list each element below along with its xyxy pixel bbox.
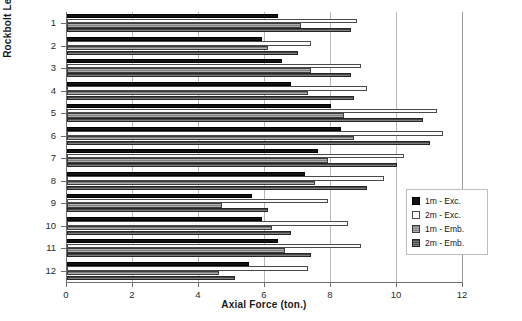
bar-2-1m-emb- (67, 46, 268, 50)
y-tick-11 (61, 248, 66, 249)
bar-5-1m-exc- (67, 104, 331, 108)
legend-swatch-2m-exc (412, 211, 420, 219)
legend-swatch-2m-emb (412, 239, 420, 247)
bar-1-2m-exc- (67, 19, 357, 23)
y-tick-6 (61, 136, 66, 137)
y-tick-label-11: 11 (30, 243, 56, 253)
bar-group-level-12 (67, 260, 463, 283)
bar-11-2m-exc- (67, 244, 361, 248)
bar-5-1m-emb- (67, 113, 344, 117)
legend-label-2m-emb: 2m - Emb. (425, 239, 464, 248)
bar-3-2m-exc- (67, 64, 361, 68)
y-tick-label-12: 12 (30, 266, 56, 276)
bar-9-1m-emb- (67, 203, 222, 207)
bar-3-1m-exc- (67, 59, 282, 63)
bar-1-1m-emb- (67, 23, 301, 27)
x-tick-2 (132, 282, 133, 287)
y-tick-label-3: 3 (30, 63, 56, 73)
bar-6-2m-exc- (67, 131, 443, 135)
bar-4-2m-emb- (67, 96, 354, 100)
bar-3-1m-emb- (67, 68, 311, 72)
bar-9-1m-exc- (67, 194, 252, 198)
legend-label-2m-exc: 2m - Exc. (425, 211, 461, 220)
y-tick-label-5: 5 (30, 108, 56, 118)
bar-group-level-7 (67, 147, 463, 170)
legend-item: 2m - Exc. (412, 208, 483, 222)
bar-4-1m-exc- (67, 82, 291, 86)
legend-label-1m-emb: 1m - Emb. (425, 225, 464, 234)
bar-5-2m-emb- (67, 118, 423, 122)
x-tick-label-4: 4 (186, 289, 210, 300)
bar-group-level-3 (67, 57, 463, 80)
bar-11-2m-emb- (67, 253, 311, 257)
x-tick-label-6: 6 (252, 289, 276, 300)
bar-group-level-8 (67, 170, 463, 193)
chart-legend: 1m - Exc. 2m - Exc. 1m - Emb. 2m - Emb. (406, 189, 488, 255)
bar-2-2m-emb- (67, 51, 298, 55)
y-tick-10 (61, 226, 66, 227)
bar-4-1m-emb- (67, 91, 308, 95)
bar-7-1m-emb- (67, 158, 328, 162)
legend-swatch-1m-exc (412, 197, 420, 205)
x-tick-0 (66, 282, 67, 287)
x-axis-title: Axial Force (ton.) (66, 299, 462, 310)
y-tick-label-6: 6 (30, 131, 56, 141)
y-tick-4 (61, 91, 66, 92)
bar-group-level-2 (67, 35, 463, 58)
y-tick-label-10: 10 (30, 221, 56, 231)
bar-7-2m-exc- (67, 154, 404, 158)
y-tick-5 (61, 113, 66, 114)
bar-2-1m-exc- (67, 37, 262, 41)
y-axis-title: Rockbolt Levels (2, 0, 13, 88)
bar-group-level-6 (67, 125, 463, 148)
bar-10-1m-exc- (67, 217, 262, 221)
axial-force-bar-chart: Rockbolt Levels Axial Force (ton.) 02468… (0, 0, 522, 321)
x-tick-label-12: 12 (450, 289, 474, 300)
y-tick-12 (61, 271, 66, 272)
legend-item: 1m - Emb. (412, 222, 483, 236)
y-tick-3 (61, 68, 66, 69)
y-tick-label-9: 9 (30, 198, 56, 208)
legend-swatch-1m-emb (412, 225, 420, 233)
legend-item: 2m - Emb. (412, 236, 483, 250)
bar-8-2m-exc- (67, 176, 384, 180)
y-tick-label-8: 8 (30, 176, 56, 186)
y-tick-1 (61, 23, 66, 24)
y-tick-7 (61, 158, 66, 159)
bar-6-1m-exc- (67, 127, 341, 131)
x-tick-12 (462, 282, 463, 287)
bar-group-level-1 (67, 12, 463, 35)
x-tick-label-2: 2 (120, 289, 144, 300)
y-tick-label-7: 7 (30, 153, 56, 163)
bar-12-2m-emb- (67, 276, 235, 280)
bar-5-2m-exc- (67, 109, 437, 113)
legend-item: 1m - Exc. (412, 194, 483, 208)
bar-7-2m-emb- (67, 163, 397, 167)
bar-1-1m-exc- (67, 14, 278, 18)
bar-7-1m-exc- (67, 149, 318, 153)
bar-8-2m-emb- (67, 186, 367, 190)
bar-group-level-10 (67, 215, 463, 238)
bar-3-2m-emb- (67, 73, 351, 77)
bar-11-1m-emb- (67, 248, 285, 252)
bar-12-1m-emb- (67, 271, 219, 275)
x-tick-6 (264, 282, 265, 287)
bar-12-1m-exc- (67, 262, 249, 266)
bar-9-2m-emb- (67, 208, 268, 212)
plot-area (66, 12, 463, 283)
bar-6-1m-emb- (67, 136, 354, 140)
y-tick-9 (61, 203, 66, 204)
legend-label-1m-exc: 1m - Exc. (425, 197, 461, 206)
bar-1-2m-emb- (67, 28, 351, 32)
bar-group-level-5 (67, 102, 463, 125)
bar-2-2m-exc- (67, 41, 311, 45)
x-tick-label-0: 0 (54, 289, 78, 300)
x-tick-label-8: 8 (318, 289, 342, 300)
bar-group-level-9 (67, 192, 463, 215)
bar-11-1m-exc- (67, 239, 278, 243)
x-tick-10 (396, 282, 397, 287)
bar-4-2m-exc- (67, 86, 367, 90)
bar-12-2m-exc- (67, 266, 308, 270)
y-tick-label-1: 1 (30, 18, 56, 28)
x-tick-label-10: 10 (384, 289, 408, 300)
